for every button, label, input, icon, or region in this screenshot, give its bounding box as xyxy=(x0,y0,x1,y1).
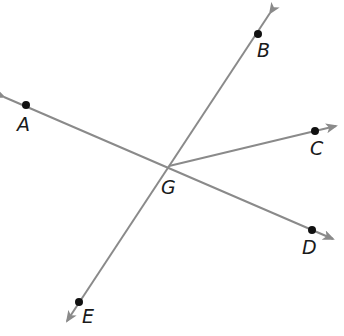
label-g: G xyxy=(161,176,176,198)
label-e: E xyxy=(82,305,94,327)
geometry-diagram: A B C G D E xyxy=(0,0,344,336)
label-c: C xyxy=(310,137,324,159)
point-d xyxy=(308,226,316,234)
label-d: D xyxy=(302,236,317,258)
point-a xyxy=(22,101,30,109)
diagram-svg: A B C G D E xyxy=(0,0,344,336)
label-a: A xyxy=(15,113,30,135)
label-b: B xyxy=(257,39,270,61)
point-c xyxy=(311,127,319,135)
line-be xyxy=(67,13,270,321)
point-b xyxy=(254,30,262,38)
